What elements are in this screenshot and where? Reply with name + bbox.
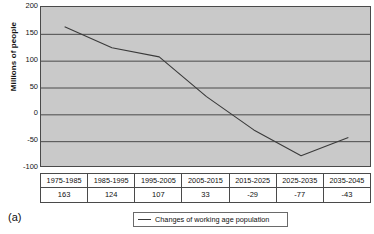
table-cell-period: 2005-2015 — [182, 174, 229, 188]
table-cell-period: 1975-1985 — [41, 174, 88, 188]
chart-legend: Changes of working age population — [133, 212, 288, 227]
data-line-working-age-population — [65, 27, 349, 156]
table-cell-period: 2035-2045 — [323, 174, 370, 188]
table-cell-value: -43 — [323, 188, 370, 203]
y-tick-label: 100 — [10, 56, 38, 64]
table-cell-value: 124 — [88, 188, 135, 203]
table-cell-value: 163 — [41, 188, 88, 203]
y-tick-label: 0 — [10, 110, 38, 118]
table-cell-value: 107 — [135, 188, 182, 203]
y-axis-tick-labels: 200150100500-50-100 — [10, 0, 38, 173]
panel-label: (a) — [8, 211, 21, 223]
table-row-periods: 1975-19851985-19951995-20052005-20152015… — [41, 174, 371, 188]
table-cell-value: -77 — [276, 188, 323, 203]
y-tick-label: 200 — [10, 2, 38, 10]
figure-panel-a: Millions of people 200150100500-50-100 1… — [0, 0, 374, 234]
table-cell-period: 1985-1995 — [88, 174, 135, 188]
table-cell-period: 1995-2005 — [135, 174, 182, 188]
table-cell-value: 33 — [182, 188, 229, 203]
legend-line-swatch-icon — [138, 219, 151, 220]
table-row-values: 16312410733-29-77-43 — [41, 188, 371, 203]
y-tick-label: 150 — [10, 29, 38, 37]
y-tick-label: 50 — [10, 83, 38, 91]
chart-plot-area — [40, 6, 371, 167]
table-cell-value: -29 — [229, 188, 276, 203]
y-tick-label: -100 — [10, 163, 38, 171]
line-chart-svg — [41, 7, 371, 167]
table-cell-period: 2025-2035 — [276, 174, 323, 188]
table-cell-period: 2015-2025 — [229, 174, 276, 188]
y-tick-label: -50 — [10, 136, 38, 144]
data-table: 1975-19851985-19951995-20052005-20152015… — [40, 173, 371, 203]
legend-series-label: Changes of working age population — [155, 215, 269, 224]
